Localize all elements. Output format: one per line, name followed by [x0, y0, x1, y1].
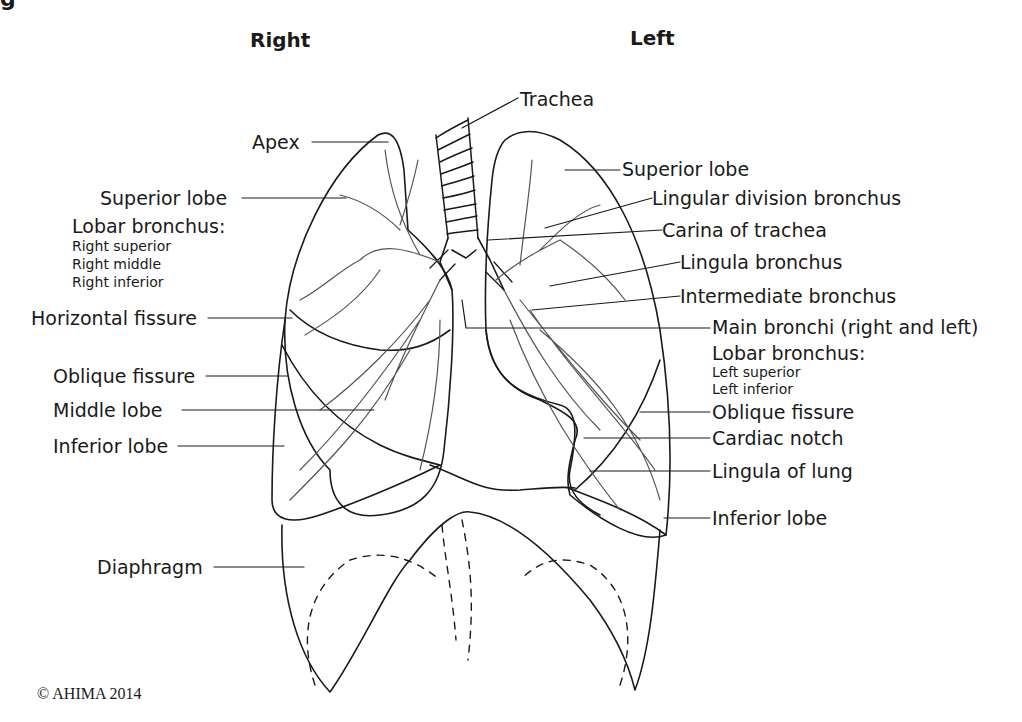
left-lung-outline: [485, 132, 669, 538]
label-cardiac-notch: Cardiac notch: [712, 427, 843, 449]
label-left-superior-lobe: Superior lobe: [622, 158, 749, 180]
label-right-inferior-bronchus: Right inferior: [72, 274, 164, 290]
mediastinal-line: [430, 465, 575, 490]
label-left-oblique-fissure: Oblique fissure: [712, 401, 854, 423]
right-oblique-fissure-line: [282, 345, 440, 465]
label-intermediate-bronchus: Intermediate bronchus: [680, 285, 896, 307]
trachea-rings: [436, 118, 478, 238]
label-right-inferior-lobe: Inferior lobe: [53, 435, 168, 457]
label-right-oblique-fissure: Oblique fissure: [53, 365, 195, 387]
label-left-superior-bronchus: Left superior: [712, 364, 800, 380]
lung-diagram: [0, 0, 1022, 722]
label-horizontal-fissure: Horizontal fissure: [31, 307, 197, 329]
label-lingular-division-bronchus: Lingular division bronchus: [652, 187, 901, 209]
label-left-inferior-bronchus: Left inferior: [712, 381, 793, 397]
label-lingula-bronchus: Lingula bronchus: [680, 251, 843, 273]
label-lingula-of-lung: Lingula of lung: [712, 460, 853, 482]
label-left-inferior-lobe: Inferior lobe: [712, 507, 827, 529]
diaphragm-outline: [282, 512, 660, 692]
right-lung-lower-outline: [272, 320, 440, 520]
label-right-lobar-bronchus: Lobar bronchus:: [72, 215, 225, 237]
label-diaphragm: Diaphragm: [97, 556, 203, 578]
label-main-bronchi: Main bronchi (right and left): [712, 316, 978, 338]
label-apex: Apex: [252, 131, 300, 153]
label-left-lobar-bronchus: Lobar bronchus:: [712, 342, 865, 364]
left-side-heading: Left: [630, 27, 675, 49]
label-middle-lobe: Middle lobe: [53, 399, 162, 421]
label-trachea: Trachea: [520, 88, 594, 110]
right-side-heading: Right: [250, 29, 310, 51]
label-carina-of-trachea: Carina of trachea: [662, 219, 827, 241]
lingula-lower-line: [568, 488, 666, 535]
diaphragm-dashed: [307, 520, 627, 685]
copyright-notice: © AHIMA 2014: [37, 683, 142, 705]
label-right-middle-bronchus: Right middle: [72, 256, 161, 272]
label-right-superior-bronchus: Right superior: [72, 238, 171, 254]
right-lung-outline: [285, 133, 453, 516]
label-right-superior-lobe: Superior lobe: [100, 187, 227, 209]
